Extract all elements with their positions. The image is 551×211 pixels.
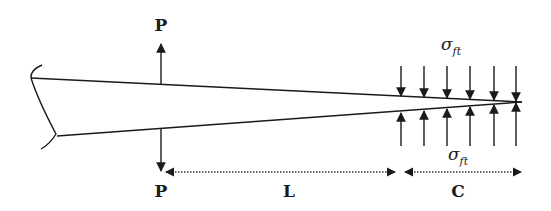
specimen-body <box>31 65 522 149</box>
diagram-canvas: P P σft σft L C <box>0 0 551 211</box>
upper-crack-face <box>31 78 522 102</box>
load-label-bottom: P <box>155 181 168 201</box>
lower-crack-face <box>57 102 522 136</box>
dimension-label-C: C <box>451 181 465 201</box>
load-label-top: P <box>155 15 168 35</box>
stress-label-top: σft <box>441 34 462 58</box>
stress-arrows-top <box>401 66 516 101</box>
stress-label-bottom: σft <box>448 144 469 168</box>
dimension-label-L: L <box>283 181 295 201</box>
